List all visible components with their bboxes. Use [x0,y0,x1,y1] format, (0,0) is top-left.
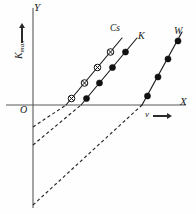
y-axis-label: Y [34,2,40,13]
y-quantity-symbol: K [13,52,24,59]
datapoint [175,38,181,44]
up-arrow-icon [21,28,23,43]
datapoint [68,95,75,102]
photoelectric-effect-chart: Y X O Kmax v Cs K W [0,0,196,214]
series-label-k: K [138,31,145,41]
datapoint [96,80,102,86]
series-cs-line [66,38,122,105]
x-axis-label: X [180,96,187,107]
y-quantity-label: Kmax [14,28,25,72]
datapoint [94,64,101,71]
datapoint [109,64,115,70]
chart-canvas [0,0,196,214]
datapoint [144,93,150,99]
series-w-dashed-extrapolation [33,105,142,205]
datapoint [122,49,128,55]
series-k-dashed-extrapolation [33,105,81,145]
datapoint [81,80,88,87]
datapoint [107,49,114,56]
datapoint [83,95,89,101]
series-label-w: W [174,26,182,36]
series-k-line [81,38,137,105]
origin-label: O [20,105,27,115]
right-arrow-icon [153,115,168,117]
series-cs-dashed-extrapolation [33,105,66,127]
datapoint [165,56,171,62]
datapoint [155,74,161,80]
x-quantity-label: v [145,110,149,119]
series-label-cs: Cs [110,24,120,34]
